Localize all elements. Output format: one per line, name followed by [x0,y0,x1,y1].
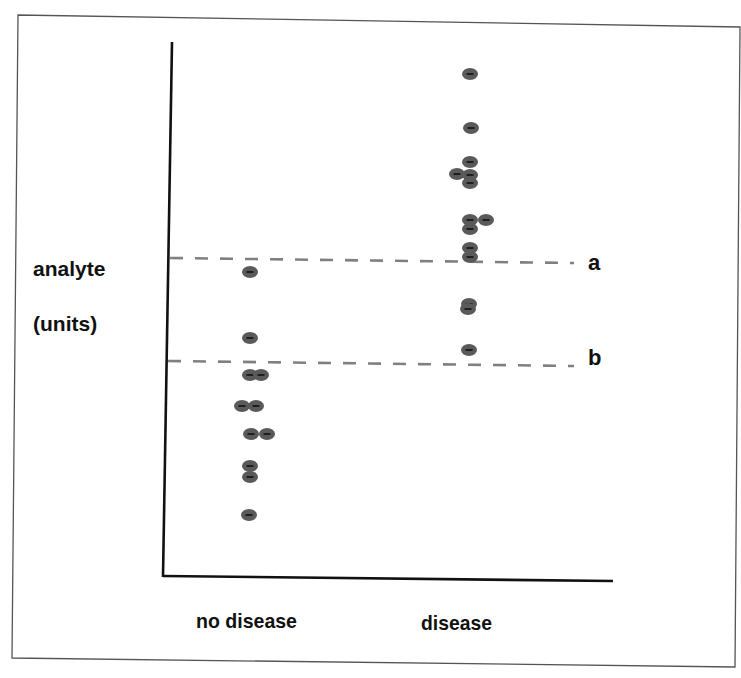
data-point-no-disease [234,400,250,412]
data-point-no-disease [242,460,258,472]
data-point-no-disease [253,369,269,381]
threshold-label-a: a [588,250,601,275]
data-point-disease [462,177,478,189]
data-point-no-disease [242,471,258,483]
chart: a b analyte (units) no disease disease [0,0,741,678]
threshold-line-a [170,258,574,263]
data-point-disease [461,344,477,356]
x-category-label-no-disease: no disease [196,609,297,632]
data-point-no-disease [259,428,275,440]
data-point-no-disease [248,400,264,412]
threshold-line-b [168,361,574,366]
data-point-no-disease [242,332,258,344]
data-point-no-disease [241,509,257,521]
frame-border [12,15,740,667]
data-point-disease [462,251,478,263]
y-axis [163,42,172,577]
data-points [234,68,494,521]
data-point-disease [478,214,494,226]
data-point-disease [460,303,476,315]
data-point-disease [463,122,479,134]
x-category-label-disease: disease [421,611,492,634]
y-axis-label-line1: analyte [33,257,105,280]
data-point-no-disease [243,428,259,440]
data-point-no-disease [242,266,258,278]
y-axis-label-line2: (units) [33,312,97,335]
data-point-disease [462,156,478,168]
data-point-disease [462,68,478,80]
data-point-disease [462,223,478,235]
threshold-label-b: b [588,345,601,370]
x-axis [163,576,613,581]
